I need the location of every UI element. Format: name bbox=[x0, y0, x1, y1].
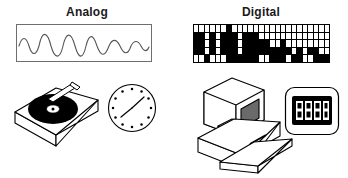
desktop-computer-illustration bbox=[188, 74, 298, 174]
analog-vs-digital-figure: Analog bbox=[0, 0, 348, 178]
analog-column: Analog bbox=[0, 0, 174, 178]
bitmap-grid bbox=[193, 24, 330, 63]
analog-heading: Analog bbox=[0, 5, 174, 19]
bitmap-cell bbox=[325, 48, 330, 56]
analog-clock-illustration bbox=[106, 82, 158, 134]
digital-column: Digital bbox=[174, 0, 348, 178]
bitmap-cell bbox=[325, 33, 330, 41]
digital-heading: Digital bbox=[174, 5, 348, 19]
digital-clock-illustration bbox=[284, 86, 340, 136]
turntable-illustration bbox=[12, 78, 104, 150]
bitmap-cell bbox=[325, 55, 330, 63]
bitmap-cell bbox=[325, 25, 330, 33]
sine-wave-icon bbox=[17, 25, 151, 61]
analog-waveform-panel bbox=[16, 24, 152, 62]
bitmap-cell bbox=[325, 40, 330, 48]
digital-bitmap-panel bbox=[193, 24, 329, 62]
